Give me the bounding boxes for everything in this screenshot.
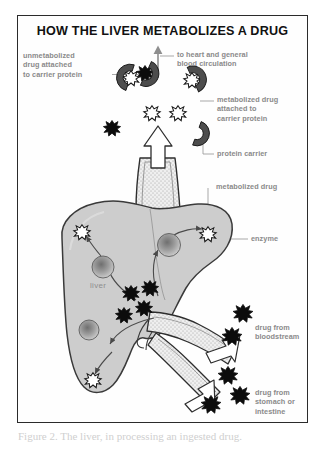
label-metabolized-drug-carrier: metabolized drug attached to carrier pro… <box>217 95 312 123</box>
unmetabolized-drug-icon <box>233 304 253 322</box>
label-to-heart-circulation: to heart and general blood circulation <box>177 50 299 69</box>
unmetabolized-drug-icon <box>103 121 120 137</box>
label-unmetabolized-drug-carrier: unmetabolized drug attached to carrier p… <box>23 51 115 79</box>
leader-protein-carrier <box>203 143 214 154</box>
label-enzyme: enzyme <box>251 234 311 243</box>
metabolized-drug-icon <box>170 106 186 121</box>
enzyme-icon <box>79 320 99 340</box>
label-drug-from-bloodstream: drug from bloodstream <box>255 323 321 342</box>
label-liver: liver <box>90 281 106 290</box>
enzyme-icon <box>158 234 181 257</box>
label-protein-carrier: protein carrier <box>217 149 312 158</box>
unmetabolized-drug-icon <box>230 386 250 404</box>
metabolized-drug-icon <box>144 106 160 121</box>
figure-caption: Figure 2. The liver, in processing an in… <box>18 430 318 443</box>
unmetabolized-drug-icon <box>218 366 238 384</box>
label-metabolized-drug: metabolized drug <box>216 182 311 191</box>
label-drug-from-stomach-intestine: drug from stomach or intestine <box>255 388 321 416</box>
enzyme-icon <box>92 256 114 278</box>
figure-root: HOW THE LIVER METABOLIZES A DRUG <box>0 0 325 450</box>
